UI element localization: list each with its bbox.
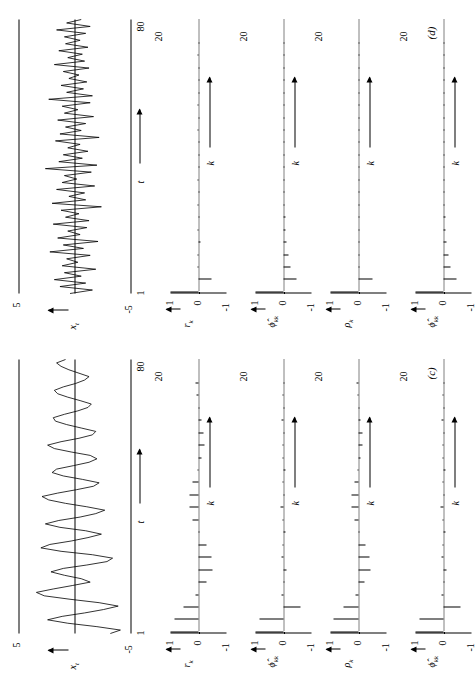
pacf-zero-dotline-c xyxy=(283,359,284,633)
pacf-xlabel-d: k xyxy=(449,161,460,165)
correlogram-spike xyxy=(283,117,284,118)
correlogram-spike xyxy=(283,241,286,242)
pacf-ytop-label-d: 1 xyxy=(408,300,419,305)
correlogram-spike xyxy=(197,54,198,55)
correlogram-spike xyxy=(283,204,284,205)
correlogram-spike xyxy=(283,104,284,105)
correlogram-spike xyxy=(442,444,443,445)
correlogram-spike xyxy=(443,79,444,80)
correlogram-spike xyxy=(330,631,358,632)
correlogram-spike xyxy=(174,619,198,620)
ts-ylabel-d: xt xyxy=(66,323,80,329)
correlogram-spike xyxy=(442,457,443,458)
correlogram-spike xyxy=(443,42,444,43)
correlogram-spike xyxy=(198,167,199,168)
correlogram-spike xyxy=(283,67,284,68)
pacf-ymid-label-d: 0 xyxy=(436,300,447,305)
ts-xend-label-c: 80 xyxy=(134,361,145,371)
pacf-xlabel-c: k xyxy=(289,501,300,505)
correlogram-spike xyxy=(170,631,198,632)
correlogram-spike xyxy=(358,279,372,280)
pacf-ylabel-c: ϕ̂kk xyxy=(265,656,279,667)
correlogram-spike xyxy=(440,507,443,508)
pacf-ymid-label-d: 0 xyxy=(276,300,287,305)
correlogram-spike xyxy=(283,382,284,383)
ts-xlabel-c: t xyxy=(134,520,145,523)
correlogram-spike xyxy=(198,117,199,118)
correlogram-spike xyxy=(443,606,460,607)
pacf-plot-lower-d: 10-1ϕ̂kk20k xyxy=(415,19,471,293)
acf-ybottom-label-c: -1 xyxy=(219,643,230,651)
acf-ymid-label-c: 0 xyxy=(191,640,202,645)
correlogram-spike xyxy=(198,142,199,143)
correlogram-spike xyxy=(283,54,284,55)
correlogram-spike xyxy=(358,104,359,105)
correlogram-spike xyxy=(189,507,198,508)
correlogram-spike xyxy=(283,179,284,180)
theoretical-acf-plot-d: 1 0 -1 ρk 20 k xyxy=(330,19,386,293)
correlogram-spike xyxy=(358,419,360,420)
correlogram-spike xyxy=(197,204,198,205)
correlogram-spike xyxy=(283,216,285,217)
correlogram-spike xyxy=(358,216,359,217)
acf-ylabel-arrow-d xyxy=(166,305,180,312)
correlogram-spike xyxy=(283,494,284,495)
correlogram-spike xyxy=(357,469,358,470)
rho-xend-label-d: 20 xyxy=(312,31,323,41)
correlogram-spike xyxy=(283,606,300,607)
pacf-ylabel-arrow-d xyxy=(251,305,265,312)
pacf-ylabel-arrow-c xyxy=(411,645,425,652)
acf-ylabel-c: rk xyxy=(180,660,194,667)
correlogram-spike xyxy=(415,631,443,632)
correlogram-spike xyxy=(358,241,359,242)
ts-ytop-label-d: 5 xyxy=(10,302,21,307)
rho-xlabel-arrow-d xyxy=(366,77,373,147)
ts-xstart-label-c: 1 xyxy=(134,630,145,635)
correlogram-spike xyxy=(259,619,283,620)
pacf-ylabel-arrow-d xyxy=(411,305,425,312)
correlogram-spike xyxy=(358,531,359,532)
correlogram-spike xyxy=(198,544,206,545)
correlogram-spike xyxy=(281,419,283,420)
correlogram-spike xyxy=(198,241,200,242)
correlogram-spike xyxy=(283,569,286,570)
correlogram-spike xyxy=(443,266,450,267)
correlogram-spike xyxy=(198,279,211,280)
correlogram-spike xyxy=(198,191,199,192)
pacf-xend-label-d: 20 xyxy=(397,31,408,41)
correlogram-spike xyxy=(443,254,448,255)
acf-xend-label-d: 20 xyxy=(152,31,163,41)
pacf-ybottom-label-d: -1 xyxy=(304,303,315,311)
correlogram-spike xyxy=(358,204,359,205)
correlogram-spike xyxy=(195,594,198,595)
correlogram-spike xyxy=(358,191,359,192)
correlogram-spike xyxy=(282,444,283,445)
correlogram-spike xyxy=(358,142,359,143)
rho-ylabel-arrow-c xyxy=(326,645,340,652)
pacf-ybottom-label-c: -1 xyxy=(464,643,475,651)
pacf-xlabel-c: k xyxy=(449,501,460,505)
pacf-ytop-label-d: 1 xyxy=(248,300,259,305)
correlogram-spike xyxy=(283,531,285,532)
ts-curve-c xyxy=(18,359,130,633)
pacf-ylabel-d: ϕ̂kk xyxy=(265,316,279,327)
correlogram-spike xyxy=(330,291,358,292)
correlogram-spike xyxy=(282,394,283,395)
correlogram-spike xyxy=(198,419,201,420)
correlogram-spike xyxy=(441,556,443,557)
pacf-xlabel-d: k xyxy=(289,161,300,165)
acf-xlabel-c: k xyxy=(204,501,215,505)
correlogram-spike xyxy=(358,457,360,458)
correlogram-spike xyxy=(283,407,284,408)
rho-xend-label-c: 20 xyxy=(312,371,323,381)
correlogram-spike xyxy=(197,469,198,470)
correlogram-spike xyxy=(189,494,198,495)
rho-xlabel-c: k xyxy=(364,501,375,505)
pacf-ylabel-arrow-c xyxy=(251,645,265,652)
correlogram-spike xyxy=(192,519,198,520)
ts-ylabel-arrow-d xyxy=(48,306,68,313)
correlogram-spike xyxy=(283,142,284,143)
rho-xlabel-d: k xyxy=(364,161,375,165)
correlogram-spike xyxy=(358,444,362,445)
